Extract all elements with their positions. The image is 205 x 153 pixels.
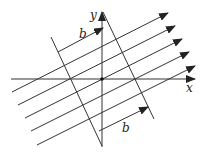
parallel-arrow [18,26,175,105]
parallel-arrow [31,52,189,131]
b-label-bottom: b [122,121,130,135]
left-slanted-line [51,37,102,146]
parallel-arrow [37,66,195,145]
parallel-arrow [12,13,168,92]
y-axis-label: y [89,8,97,22]
x-axis-label: x [186,81,193,95]
origin-dot [100,77,104,81]
b-label-top: b [79,27,87,41]
coordinate-diagram: y x b b [0,0,205,153]
